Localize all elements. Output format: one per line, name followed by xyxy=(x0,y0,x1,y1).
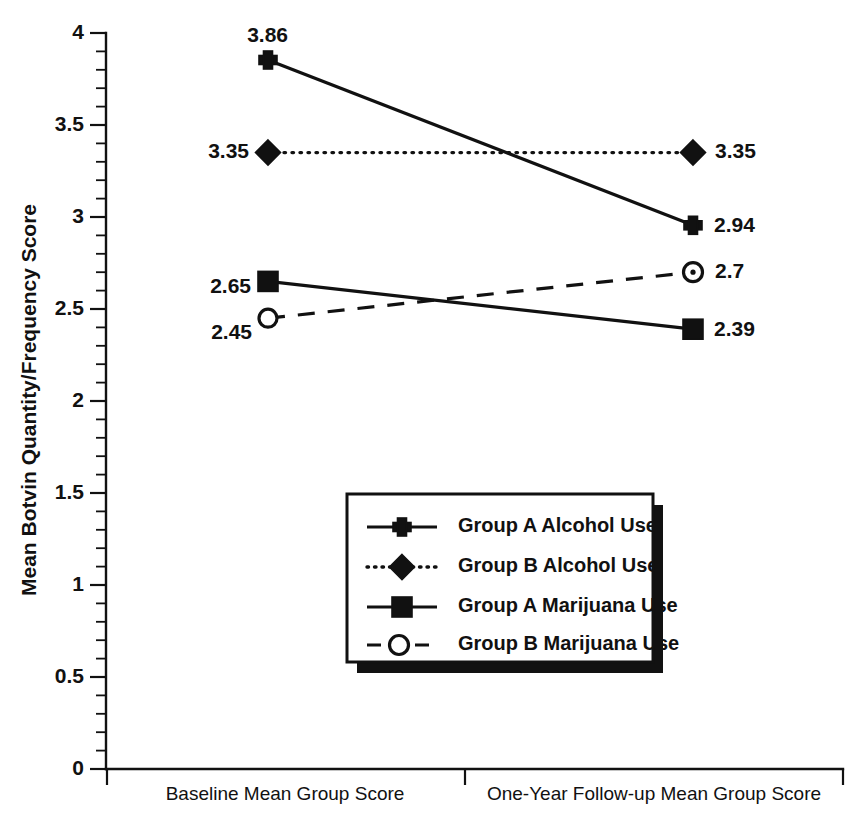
y-tick-label-2-5: 2.5 xyxy=(55,296,85,319)
line-chart: 4 3.5 3 2.5 2 1.5 1 0.5 0 Mean Botvin Qu… xyxy=(0,0,851,818)
chart-page: 4 3.5 3 2.5 2 1.5 1 0.5 0 Mean Botvin Qu… xyxy=(0,0,851,818)
y-tick-label-2: 2 xyxy=(72,388,84,411)
marker-diamond-baseline-group-b-alcohol xyxy=(256,140,281,165)
marker-cross-baseline-group-a-alcohol xyxy=(259,51,277,69)
series-line-group-a-alcohol xyxy=(268,60,693,225)
point-label-b-alcohol-baseline: 3.35 xyxy=(208,139,249,162)
point-label-a-alcohol-followup: 2.94 xyxy=(714,213,755,236)
marker-diamond-followup-group-b-alcohol xyxy=(681,140,706,165)
series-line-group-a-marijuana xyxy=(268,281,693,329)
legend-label-group-a-alcohol-use: Group A Alcohol Use xyxy=(458,514,657,536)
x-category-label-baseline: Baseline Mean Group Score xyxy=(166,783,405,804)
point-label-a-alcohol-baseline: 3.86 xyxy=(247,23,288,46)
x-category-label-followup: One-Year Follow-up Mean Group Score xyxy=(487,783,821,804)
marker-square-baseline-group-a-marijuana xyxy=(258,271,278,291)
legend-label-group-a-marijuana-use: Group A Marijuana Use xyxy=(458,594,678,616)
point-label-a-marijuana-baseline: 2.65 xyxy=(210,274,251,297)
legend-label-group-b-alcohol-use: Group B Alcohol Use xyxy=(458,554,658,576)
series-group-b-marijuana-use: 2.45 2.7 xyxy=(211,259,744,343)
series-group-a-alcohol-use: 3.86 2.94 xyxy=(247,23,755,236)
y-tick-label-0: 0 xyxy=(72,756,84,779)
y-axis: 4 3.5 3 2.5 2 1.5 1 0.5 0 Mean Botvin Qu… xyxy=(17,20,106,779)
legend-label-group-b-marijuana-use: Group B Marijuana Use xyxy=(458,632,679,654)
y-tick-label-0-5: 0.5 xyxy=(55,664,85,687)
square-icon xyxy=(392,597,412,617)
series-line-group-b-marijuana xyxy=(268,272,693,318)
y-tick-label-4: 4 xyxy=(72,20,84,43)
point-label-a-marijuana-followup: 2.39 xyxy=(714,317,755,340)
y-axis-title: Mean Botvin Quantity/Frequency Score xyxy=(17,204,40,596)
y-tick-label-1: 1 xyxy=(72,572,84,595)
marker-circle-open-baseline-group-b-marijuana xyxy=(259,309,277,327)
y-tick-label-3: 3 xyxy=(72,204,84,227)
marker-square-followup-group-a-marijuana xyxy=(683,319,703,339)
chart-legend: Group A Alcohol Use Group B Alcohol Use … xyxy=(347,494,679,673)
series-group-a-marijuana-use: 2.65 2.39 xyxy=(210,271,755,339)
point-label-b-marijuana-baseline: 2.45 xyxy=(211,320,252,343)
circle-open-icon xyxy=(390,636,409,655)
point-label-b-alcohol-followup: 3.35 xyxy=(715,139,756,162)
point-label-b-marijuana-followup: 2.7 xyxy=(715,259,744,282)
marker-circle-open-followup-group-b-marijuana xyxy=(684,263,703,282)
x-axis: Baseline Mean Group Score One-Year Follo… xyxy=(106,769,843,804)
marker-cross-followup-group-a-alcohol xyxy=(684,216,702,234)
y-tick-label-1-5: 1.5 xyxy=(55,480,85,503)
y-tick-label-3-5: 3.5 xyxy=(55,112,85,135)
